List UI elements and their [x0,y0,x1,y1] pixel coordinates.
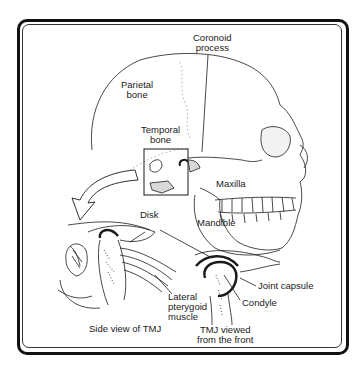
coronoid-leader [202,55,208,152]
label-condyle: Condyle [242,298,277,308]
caption-line: from the front [197,335,254,345]
label-coronoid-process: Coronoid process [193,33,232,53]
label-joint-capsule: Joint capsule [258,281,313,291]
label-parietal-bone: Parietal bone [121,80,153,100]
inset-detail [150,160,200,193]
label-mandible: Mandible [197,218,236,228]
label-disk: Disk [140,210,158,220]
label-line: bone [121,90,153,100]
zoom-arrow [72,170,138,220]
side-view-joint [58,222,176,308]
label-line: process [193,43,232,53]
label-line: bone [141,135,180,145]
label-lateral-pterygoid-muscle: Lateral pterygoid muscle [168,292,207,322]
caption-front-view: TMJ viewed from the front [197,325,254,345]
label-maxilla: Maxilla [216,179,246,189]
label-temporal-bone: Temporal bone [141,125,180,145]
caption-side-view: Side view of TMJ [89,324,161,334]
label-line: muscle [168,312,207,322]
